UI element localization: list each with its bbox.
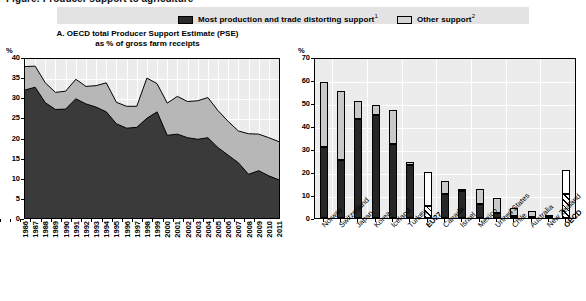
x-tick-mark: [323, 219, 324, 222]
bar-segment-other: [476, 189, 484, 203]
panel-b-plot-area: [314, 58, 576, 219]
x-tick-mark: [375, 219, 376, 222]
x-tick-label: 2004: [204, 221, 213, 238]
y-tick-mark: [311, 104, 314, 105]
y-tick-mark: [21, 199, 24, 200]
vertical-gridline: [279, 59, 280, 218]
x-tick-mark: [152, 219, 153, 222]
bar-canada[interactable]: [441, 181, 449, 218]
x-tick-label: 2000: [163, 221, 172, 238]
x-tick-mark: [565, 219, 566, 222]
gridline: [315, 82, 575, 83]
bar-iceland[interactable]: [389, 110, 397, 218]
vertical-gridline: [402, 59, 403, 218]
y-tick-label: 40: [292, 123, 310, 131]
y-tick-mark: [311, 196, 314, 197]
x-tick-label: 2002: [184, 221, 193, 238]
x-tick-mark: [234, 219, 235, 222]
x-tick-mark: [183, 219, 184, 222]
y-tick-label: 35: [2, 74, 20, 82]
x-tick-mark: [81, 219, 82, 222]
x-tick-mark: [142, 219, 143, 222]
x-tick-label: 1990: [62, 221, 71, 238]
y-tick-label: 25: [2, 114, 20, 122]
x-tick-mark: [173, 219, 174, 222]
y-tick-mark: [21, 179, 24, 180]
x-tick-mark: [392, 219, 393, 222]
bar-norway[interactable]: [320, 82, 328, 218]
x-tick-mark: [20, 219, 21, 222]
vertical-gridline: [332, 59, 333, 218]
bar-segment-other: [562, 170, 570, 193]
x-tick-mark: [213, 219, 214, 222]
x-tick-label: 2006: [224, 221, 233, 238]
y-tick-label: 50: [292, 100, 310, 108]
panel-a-title-line2: as % of gross farm receipts: [15, 39, 280, 49]
bar-segment-distorting: [320, 147, 328, 219]
y-tick-label: 0: [292, 215, 310, 223]
bar-segment-other: [320, 82, 328, 147]
x-tick-mark: [203, 219, 204, 222]
x-tick-mark: [30, 219, 31, 222]
x-tick-label: 1993: [92, 221, 101, 238]
bar-segment-distorting: [372, 115, 380, 218]
area-chart-svg: [25, 59, 279, 218]
y-tick-label: 20: [292, 169, 310, 177]
y-tick-label: 20: [2, 135, 20, 143]
x-tick-mark: [513, 219, 514, 222]
x-tick-label: 1991: [72, 221, 81, 238]
bar-segment-other: [354, 101, 362, 119]
x-tick-mark: [10, 219, 11, 222]
x-tick-mark: [51, 219, 52, 222]
x-tick-mark: [496, 219, 497, 222]
x-tick-mark: [41, 219, 42, 222]
x-tick-mark: [357, 219, 358, 222]
bar-segment-other: [424, 172, 432, 206]
panel-a-title-line1: A. OECD total Producer Support Estimate …: [15, 29, 280, 39]
x-tick-mark: [254, 219, 255, 222]
x-tick-label: 1999: [153, 221, 162, 238]
x-tick-label: 1996: [123, 221, 132, 238]
x-tick-mark: [102, 219, 103, 222]
x-tick-mark: [122, 219, 123, 222]
x-tick-mark: [427, 219, 428, 222]
bar-segment-distorting: [389, 144, 397, 218]
x-tick-label: 1992: [82, 221, 91, 238]
bar-segment-other: [406, 162, 414, 166]
x-tick-label: 2003: [194, 221, 203, 238]
x-tick-label: 2010: [265, 221, 274, 238]
y-tick-mark: [311, 150, 314, 151]
x-tick-label: 1994: [102, 221, 111, 238]
x-tick-mark: [444, 219, 445, 222]
bar-switzerland[interactable]: [337, 91, 345, 218]
y-tick-mark: [311, 81, 314, 82]
y-tick-label: 30: [2, 94, 20, 102]
y-tick-mark: [21, 139, 24, 140]
x-tick-label: 2001: [173, 221, 182, 238]
panel-b: B. Producer Support Estimate (PSE) as % …: [292, 0, 586, 301]
x-tick-mark: [163, 219, 164, 222]
y-tick-mark: [21, 78, 24, 79]
bar-korea[interactable]: [372, 105, 380, 218]
bar-segment-other: [372, 105, 380, 115]
panel-a-x-axis-labels: 1986198719881989199019911992199319941995…: [24, 221, 280, 299]
x-tick-mark: [531, 219, 532, 222]
y-tick-label: 40: [2, 54, 20, 62]
vertical-gridline: [506, 59, 507, 218]
vertical-gridline: [471, 59, 472, 218]
vertical-gridline: [540, 59, 541, 218]
x-tick-mark: [112, 219, 113, 222]
x-tick-label: 2007: [234, 221, 243, 238]
y-tick-label: 10: [2, 175, 20, 183]
x-tick-mark: [0, 219, 1, 222]
bar-segment-other: [441, 181, 449, 194]
x-tick-mark: [91, 219, 92, 222]
x-tick-label: 1997: [133, 221, 142, 238]
x-tick-mark: [61, 219, 62, 222]
x-tick-mark: [224, 219, 225, 222]
y-tick-mark: [311, 127, 314, 128]
x-tick-label: 1986: [21, 221, 30, 238]
y-tick-label: 60: [292, 77, 310, 85]
bar-mexico[interactable]: [476, 189, 484, 218]
bar-segment-other: [389, 110, 397, 144]
